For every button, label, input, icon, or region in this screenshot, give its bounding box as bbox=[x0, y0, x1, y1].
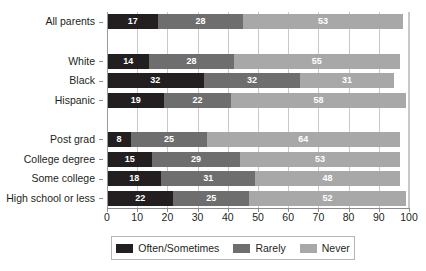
x-axis-tick-label-70: 70 bbox=[313, 212, 325, 223]
y-axis-tick bbox=[99, 61, 103, 62]
y-axis-tick bbox=[99, 159, 103, 160]
x-axis-tick-labels: 0102030405060708090100 bbox=[0, 212, 426, 228]
y-axis-label-all-parents: All parents bbox=[45, 16, 95, 27]
plot-area: 1728531428553232311922588256415295318314… bbox=[107, 12, 409, 208]
gridline-100 bbox=[409, 12, 410, 208]
y-axis-tick bbox=[99, 81, 103, 82]
y-axis-tick bbox=[99, 179, 103, 180]
x-axis-tick-label-80: 80 bbox=[343, 212, 355, 223]
legend-swatch-icon bbox=[233, 244, 250, 253]
legend-item-often-sometimes[interactable]: Often/Sometimes bbox=[116, 243, 219, 254]
y-axis-labels: All parentsWhiteBlackHispanicPost gradCo… bbox=[0, 12, 103, 208]
x-axis-tick-label-90: 90 bbox=[373, 212, 385, 223]
x-axis-tick-label-40: 40 bbox=[222, 212, 234, 223]
legend-item-never[interactable]: Never bbox=[300, 243, 350, 254]
y-axis-tick bbox=[99, 22, 103, 23]
legend-swatch-icon bbox=[116, 244, 133, 253]
legend-label: Never bbox=[322, 243, 350, 254]
x-axis-tick-label-100: 100 bbox=[400, 212, 418, 223]
y-axis-label-white: White bbox=[68, 56, 95, 67]
y-axis-label-hispanic: Hispanic bbox=[55, 95, 95, 106]
axis-frame bbox=[107, 12, 409, 208]
x-axis-tick-label-30: 30 bbox=[192, 212, 204, 223]
x-axis-tick-label-10: 10 bbox=[131, 212, 143, 223]
y-axis-label-high-school-or-less: High school or less bbox=[6, 193, 95, 204]
y-axis-label-post-grad: Post grad bbox=[50, 134, 95, 145]
y-axis-label-college-degree: College degree bbox=[24, 154, 95, 165]
legend-swatch-icon bbox=[300, 244, 317, 253]
y-axis-label-black: Black bbox=[69, 75, 95, 86]
y-axis-label-some-college: Some college bbox=[31, 173, 95, 184]
x-axis-tick-label-50: 50 bbox=[252, 212, 264, 223]
legend-label: Often/Sometimes bbox=[138, 243, 219, 254]
legend-label: Rarely bbox=[255, 243, 285, 254]
legend-item-rarely[interactable]: Rarely bbox=[233, 243, 285, 254]
chart-legend: Often/SometimesRarelyNever bbox=[111, 236, 355, 260]
y-axis-tick bbox=[99, 139, 103, 140]
x-axis-tick-label-0: 0 bbox=[104, 212, 110, 223]
y-axis-tick bbox=[99, 198, 103, 199]
stacked-bar-chart: All parentsWhiteBlackHispanicPost gradCo… bbox=[0, 0, 426, 271]
x-axis-tick-label-60: 60 bbox=[282, 212, 294, 223]
y-axis-tick bbox=[99, 100, 103, 101]
x-axis-tick-label-20: 20 bbox=[162, 212, 174, 223]
